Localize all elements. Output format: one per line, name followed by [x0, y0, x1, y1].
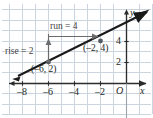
run-label: run = 4 — [50, 22, 78, 32]
run-arrow — [49, 34, 99, 39]
y-axis-label: y — [130, 8, 134, 18]
x-tick-label-minus6: –6 — [43, 87, 53, 97]
y-tick-label-4: 4 — [116, 36, 121, 46]
x-tick-label-minus4: –4 — [69, 87, 79, 97]
y-axis — [124, 9, 129, 118]
origin-label: O — [116, 86, 123, 96]
x-tick-label-minus2: –2 — [95, 87, 105, 97]
point-label-minus2-4: (–2, 4) — [83, 44, 108, 54]
x-tick-label-minus8: –8 — [17, 87, 27, 97]
rise-arrow — [46, 39, 51, 62]
x-axis-label: x — [140, 86, 144, 96]
rise-label: rise = 2 — [5, 47, 34, 57]
point-label-minus6-2: (–6, 2) — [31, 65, 56, 75]
graph-figure: rise = 2 run = 4 (–6, 2) (–2, 4) –8 –6 –… — [0, 0, 153, 118]
y-tick-label-2: 2 — [116, 57, 121, 67]
